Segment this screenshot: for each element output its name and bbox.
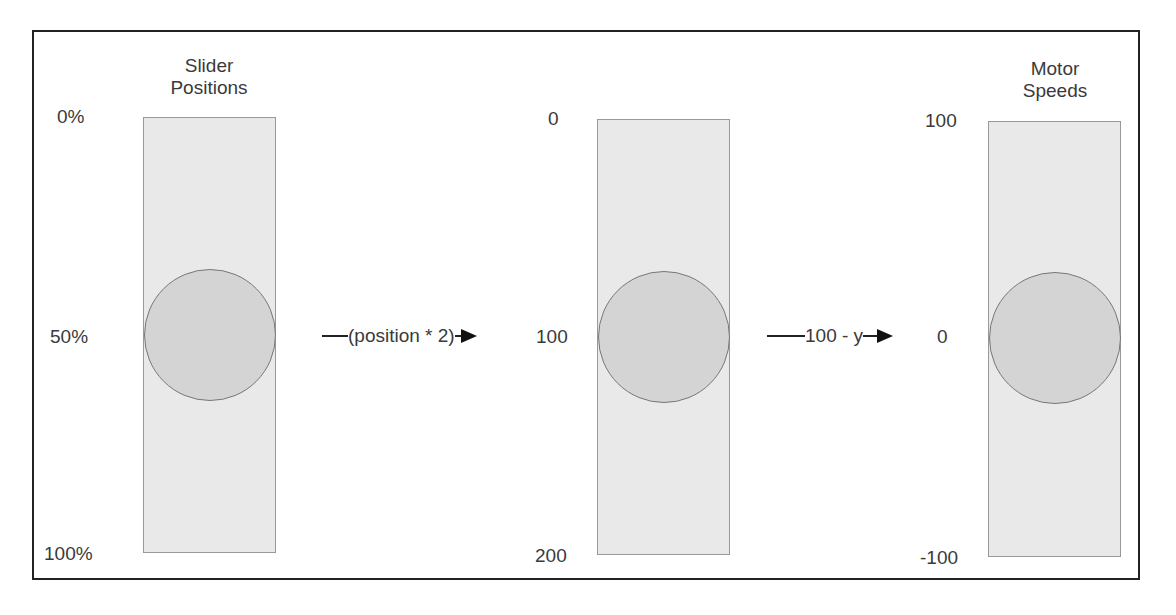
title-line: Motor [988, 58, 1122, 80]
intermediate-bottom-label: 200 [535, 545, 567, 567]
connector-position-times-two: (position * 2) [322, 325, 477, 347]
connector-line [863, 335, 877, 337]
connector-line [322, 335, 348, 337]
title-line: Slider [142, 55, 276, 77]
slider-positions-top-label: 0% [57, 106, 84, 128]
motor-speeds-bottom-label: -100 [920, 547, 958, 569]
motor-speeds-top-label: 100 [925, 110, 957, 132]
arrow-right-icon [877, 329, 893, 343]
motor-speeds-knob[interactable] [989, 272, 1121, 404]
title-line: Positions [142, 77, 276, 99]
arrow-right-icon [461, 329, 477, 343]
motor-speeds-mid-label: 0 [937, 326, 948, 348]
connector-label: (position * 2) [348, 325, 455, 347]
title-line: Speeds [988, 80, 1122, 102]
intermediate-knob[interactable] [598, 271, 730, 403]
intermediate-mid-label: 100 [536, 326, 568, 348]
connector-hundred-minus-y: 100 - y [767, 325, 893, 347]
motor-speeds-title: Motor Speeds [988, 58, 1122, 102]
slider-positions-mid-label: 50% [50, 326, 88, 348]
slider-positions-title: Slider Positions [142, 55, 276, 99]
connector-label: 100 - y [805, 325, 863, 347]
connector-line [767, 335, 805, 337]
intermediate-top-label: 0 [548, 108, 559, 130]
slider-positions-bottom-label: 100% [44, 543, 93, 565]
slider-positions-knob[interactable] [144, 269, 276, 401]
